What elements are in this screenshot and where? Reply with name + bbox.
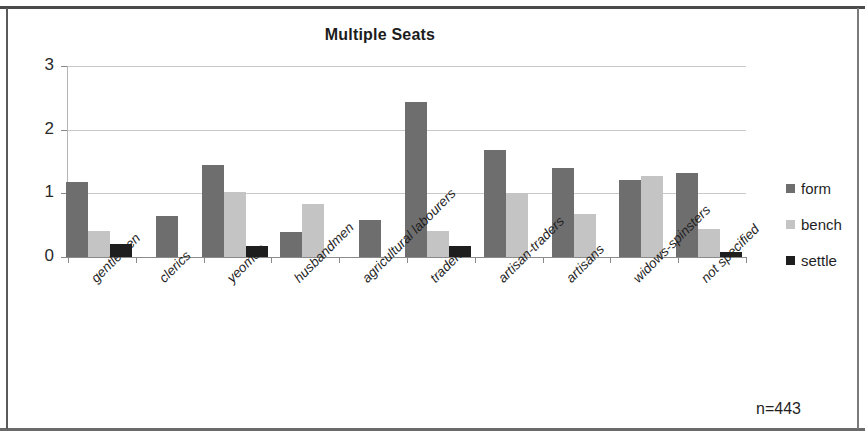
x-axis-tick-mark [204,257,205,263]
x-axis-tick-mark [68,257,69,263]
figure-border-top [0,6,865,9]
bar-form-widows-spinsters [619,180,641,257]
bar-form-clerics [156,216,178,257]
bar-bench-yeomen [224,192,246,257]
x-axis-tick-mark [136,257,137,263]
chart-legend: formbenchsettle [786,170,865,278]
bar-form-artisans [552,168,574,257]
y-axis-tick-label: 3 [20,55,54,75]
gridline [68,66,746,67]
x-axis-tick-mark [610,257,611,263]
bar-form-agricultural-labourers [359,220,381,257]
bar-form-artisan-traders [484,150,506,257]
y-axis-tick-label: 1 [20,182,54,202]
bar-bench-not-specified [698,229,720,257]
y-axis-tick-mark [61,66,67,67]
bar-form-husbandmen [280,232,302,257]
legend-label-bench: bench [801,216,842,233]
figure-border-left [6,8,8,429]
bar-bench-gentlemen [88,231,110,257]
legend-item-settle[interactable]: settle [786,242,865,278]
bar-form-gentlemen [66,182,88,257]
chart-figure: Multiple Seats 0123 formbenchsettle n=44… [0,0,865,433]
legend-item-form[interactable]: form [786,170,865,206]
bar-form-yeomen [202,165,224,257]
y-axis-tick-label: 2 [20,119,54,139]
legend-swatch-settle-icon [786,256,795,265]
x-axis-tick-mark [678,257,679,263]
legend-item-bench[interactable]: bench [786,206,865,242]
bar-bench-traders [427,231,449,257]
x-axis-tick-mark [543,257,544,263]
chart-title: Multiple Seats [0,26,760,44]
x-axis-tick-mark [407,257,408,263]
x-axis-tick-mark [746,257,747,263]
legend-swatch-form-icon [786,184,795,193]
y-axis-tick-mark [61,130,67,131]
x-axis-tick-mark [271,257,272,263]
x-axis-tick-mark [475,257,476,263]
legend-label-settle: settle [801,252,837,269]
figure-border-bottom [0,428,865,431]
y-axis-tick-label: 0 [20,246,54,266]
sample-size-note: n=443 [756,400,801,418]
legend-swatch-bench-icon [786,220,795,229]
y-axis-tick-mark [61,257,67,258]
x-axis-tick-mark [339,257,340,263]
legend-label-form: form [801,180,831,197]
